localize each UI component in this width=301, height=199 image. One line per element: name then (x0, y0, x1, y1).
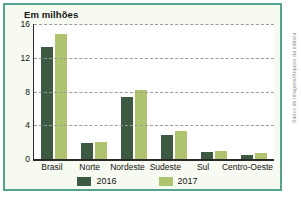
y-tick-label-12: 12 (12, 53, 30, 63)
x-axis-labels: Brasil Norte Nordeste Sudeste Sul Centro… (33, 162, 273, 172)
legend-item-2016: 2016 (77, 176, 116, 186)
y-tick-label-4: 4 (12, 120, 30, 130)
bar-2016-norte (81, 143, 93, 159)
y-tick-label-8: 8 (12, 87, 30, 97)
gridline-12 (34, 58, 274, 59)
bar-2017-sul (215, 151, 227, 159)
legend: 2016 2017 (5, 176, 270, 186)
chart-panel: Em milhões 0481216 Brasil Norte Nordeste… (3, 3, 282, 191)
legend-label-2017: 2017 (178, 176, 198, 186)
gridline-16 (34, 24, 274, 25)
bar-2017-brasil (55, 34, 67, 159)
x-label-centro-oeste: Centro-Oeste (222, 162, 273, 172)
bar-2017-sudeste (175, 131, 187, 159)
plot-area: 0481216 (33, 24, 274, 161)
x-label-sudeste: Sudeste (146, 162, 184, 172)
gridline-4 (34, 125, 274, 126)
bar-2016-brasil (41, 47, 53, 159)
bar-2016-sul (201, 152, 213, 159)
y-tick-label-16: 16 (12, 19, 30, 29)
chart-title: Em milhões (24, 9, 78, 20)
x-label-nordeste: Nordeste (109, 162, 147, 172)
y-tick-label-0: 0 (12, 154, 30, 164)
legend-label-2016: 2016 (96, 176, 116, 186)
bar-2016-nordeste (121, 97, 133, 159)
x-label-norte: Norte (71, 162, 109, 172)
bar-2016-sudeste (161, 135, 173, 159)
gridline-8 (34, 92, 274, 93)
bar-2017-centro-oeste (255, 153, 267, 159)
legend-swatch-2017 (159, 177, 173, 186)
bar-2017-norte (95, 142, 107, 159)
bar-2016-centro-oeste (241, 155, 253, 159)
x-label-sul: Sul (184, 162, 222, 172)
figure-root: { "chart_data": { "type": "bar", "title"… (0, 0, 301, 199)
image-credit: Banco de imagens/Arquivo da editora (291, 3, 301, 123)
legend-item-2017: 2017 (159, 176, 198, 186)
x-label-brasil: Brasil (33, 162, 71, 172)
legend-swatch-2016 (77, 177, 91, 186)
